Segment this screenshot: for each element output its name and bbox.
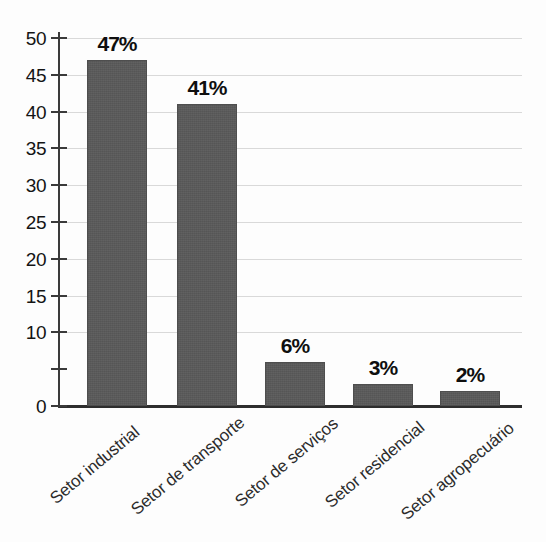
y-tick-mark-5 — [51, 368, 67, 370]
y-tick-mark-15 — [51, 295, 67, 297]
bar-setor-de-servicos[interactable] — [265, 362, 325, 406]
y-tick-label-35: 35 — [4, 139, 46, 158]
y-tick-mark-35 — [51, 147, 67, 149]
y-tick-mark-25 — [51, 221, 67, 223]
y-tick-label-25: 25 — [4, 213, 46, 232]
y-tick-mark-10 — [51, 331, 67, 333]
y-tick-mark-45 — [51, 74, 67, 76]
y-tick-mark-40 — [51, 111, 67, 113]
y-tick-label-15: 15 — [4, 287, 46, 306]
bar-setor-industrial[interactable] — [87, 60, 147, 406]
y-tick-mark-50 — [51, 37, 67, 39]
y-tick-label-0: 0 — [4, 397, 46, 416]
y-tick-label-30: 30 — [4, 176, 46, 195]
y-tick-label-50: 50 — [4, 29, 46, 48]
y-tick-label-45: 45 — [4, 66, 46, 85]
y-tick-label-20: 20 — [4, 250, 46, 269]
y-tick-label-10: 10 — [4, 323, 46, 342]
x-category-label-setor-industrial: Setor industrial — [47, 423, 142, 507]
bar-value-label-setor-de-servicos: 6% — [265, 335, 325, 356]
y-tick-label-40: 40 — [4, 103, 46, 122]
bar-setor-agropecuario[interactable] — [440, 391, 500, 406]
y-tick-mark-0 — [51, 405, 67, 407]
bar-setor-residencial[interactable] — [353, 384, 413, 406]
bar-value-label-setor-agropecuario: 2% — [440, 364, 500, 385]
x-category-label-setor-de-transporte: Setor de transporte — [128, 414, 248, 518]
bar-value-label-setor-de-transporte: 41% — [177, 77, 237, 98]
bar-value-label-setor-industrial: 47% — [87, 33, 147, 54]
y-tick-mark-30 — [51, 184, 67, 186]
y-axis-line — [58, 32, 60, 408]
bar-value-label-setor-residencial: 3% — [353, 357, 413, 378]
bar-setor-de-transporte[interactable] — [177, 104, 237, 406]
y-axis-tick-labels: 50 45 40 35 30 25 20 15 10 0 — [0, 0, 46, 542]
y-tick-mark-20 — [51, 258, 67, 260]
bar-chart: 50 45 40 35 30 25 20 15 10 0 47% 41% 6% … — [0, 0, 546, 542]
